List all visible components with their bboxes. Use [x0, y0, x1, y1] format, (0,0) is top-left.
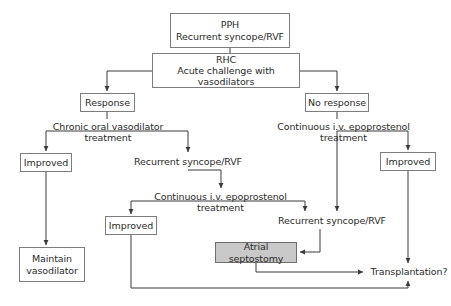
node-continuous-iv-right: Continuous i.v. epoprostenol treatment: [276, 119, 411, 145]
edge-recurrent-right-to-atrial: [300, 229, 320, 252]
node-improved-mid: Improved: [105, 216, 157, 235]
flowchart-figure: PPH Recurrent syncope/RVFRHC Acute chall…: [0, 0, 451, 306]
node-chronic-oral: Chronic oral vasodilator treatment: [51, 119, 165, 145]
node-transplantation: Transplantation?: [368, 265, 450, 279]
node-rhc: RHC Acute challenge with vasodilators: [152, 53, 300, 88]
node-response: Response: [80, 93, 135, 112]
node-improved-right: Improved: [380, 152, 436, 171]
edge-rhc-to-no-response: [300, 71, 337, 91]
node-improved-left: Improved: [20, 153, 72, 172]
node-continuous-iv-mid: Continuous i.v. epoprostenol treatment: [153, 189, 288, 215]
edge-atrial-to-transplantation: [256, 263, 363, 272]
node-no-response: No response: [305, 93, 369, 112]
edge-recurrent-mid-to-continuous-mid: [188, 170, 221, 188]
node-pph: PPH Recurrent syncope/RVF: [170, 13, 290, 48]
edge-rhc-to-response: [107, 71, 152, 91]
node-maintain-vasodilator: Maintain vasodilator: [19, 247, 85, 282]
node-recurrent-mid: Recurrent syncope/RVF: [128, 155, 248, 169]
node-atrial-septostomy: Atrial septostomy: [215, 242, 297, 263]
node-recurrent-right: Recurrent syncope/RVF: [272, 214, 392, 228]
